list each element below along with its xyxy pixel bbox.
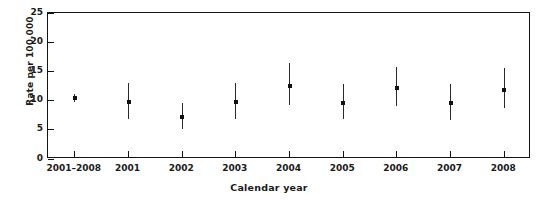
x-axis-tick-label: 2001 xyxy=(115,163,140,173)
data-point-marker xyxy=(180,115,184,119)
x-axis-tick xyxy=(289,151,290,157)
y-axis-tick-label: 20 xyxy=(25,37,43,46)
x-axis-tick xyxy=(396,151,397,157)
data-point-marker xyxy=(234,100,238,104)
chart-figure: Rate per 100,000 Calendar year 051015202… xyxy=(0,0,538,201)
y-axis-tick xyxy=(48,42,54,43)
plot-area xyxy=(47,12,530,158)
y-axis-tick-label: 25 xyxy=(25,8,43,17)
data-point-marker xyxy=(288,84,292,88)
data-point-marker xyxy=(449,101,453,105)
x-axis-tick-label: 2003 xyxy=(222,163,247,173)
data-point-marker xyxy=(395,86,399,90)
x-axis-tick xyxy=(343,151,344,157)
data-point-marker xyxy=(127,100,131,104)
y-axis-tick xyxy=(48,71,54,72)
x-axis-tick xyxy=(450,151,451,157)
x-axis-tick-label: 2006 xyxy=(383,163,408,173)
y-axis-tick-label: 5 xyxy=(25,124,43,133)
x-axis-tick xyxy=(128,151,129,157)
x-axis-tick xyxy=(74,151,75,157)
y-axis-tick xyxy=(48,13,54,14)
data-point-marker xyxy=(502,88,506,92)
x-axis-tick xyxy=(182,151,183,157)
x-axis-tick-label: 2001–2008 xyxy=(47,163,102,173)
data-point-marker xyxy=(73,96,77,100)
x-axis-tick-label: 2005 xyxy=(330,163,355,173)
x-axis-tick-label: 2004 xyxy=(276,163,301,173)
x-axis-tick-label: 2008 xyxy=(491,163,516,173)
y-axis-tick-label: 0 xyxy=(25,154,43,163)
y-axis-tick xyxy=(48,129,54,130)
x-axis-tick xyxy=(504,151,505,157)
y-axis-tick xyxy=(48,159,54,160)
x-axis-tick xyxy=(235,151,236,157)
y-axis-tick-label: 10 xyxy=(25,95,43,104)
y-axis-tick-label: 15 xyxy=(25,66,43,75)
data-point-marker xyxy=(341,101,345,105)
y-axis-tick xyxy=(48,100,54,101)
x-axis-title: Calendar year xyxy=(0,182,538,193)
x-axis-tick-label: 2002 xyxy=(169,163,194,173)
x-axis-tick-label: 2007 xyxy=(437,163,462,173)
